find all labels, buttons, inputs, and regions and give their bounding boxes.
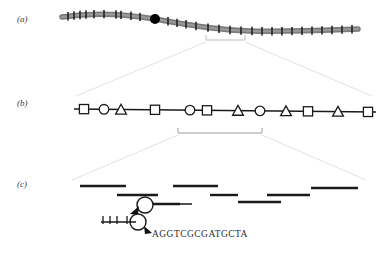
marker-circle — [255, 106, 265, 116]
marker-square — [79, 104, 88, 113]
marker-square — [363, 107, 372, 116]
connector-bc-right — [262, 135, 366, 180]
contig-segments — [80, 186, 358, 204]
marker-circle — [99, 104, 109, 114]
panel-label-b: (b) — [17, 98, 28, 108]
genomic-map-figure: (a) (b) (c) — [0, 0, 379, 255]
marker-square — [202, 106, 211, 115]
panel-a-region-bracket — [206, 35, 245, 40]
panel-b-region-bracket — [178, 128, 262, 133]
contig-map — [80, 186, 358, 234]
marker-square — [303, 107, 312, 116]
panel-label-c: (c) — [17, 179, 27, 189]
connector-ab-right — [245, 42, 372, 96]
dna-sequence-text: AGGTCGCGATGCTA — [152, 229, 248, 239]
centromere-dot — [150, 14, 160, 24]
marker-square — [150, 105, 159, 114]
marker-map — [74, 104, 376, 133]
figure-canvas — [0, 0, 379, 255]
connector-ab-left — [76, 42, 206, 96]
magnifier-circle-top — [137, 197, 153, 213]
chromosome-ideogram — [62, 10, 358, 40]
magnifier-bottom-arrow-icon — [144, 226, 152, 234]
connector-bc-left — [72, 135, 178, 180]
restriction-site-ticks — [103, 216, 127, 224]
panel-label-a: (a) — [17, 14, 28, 24]
marker-circle — [185, 105, 195, 115]
